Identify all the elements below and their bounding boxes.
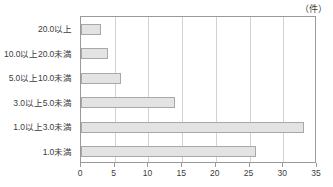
x-axis-tick-label: 0	[78, 168, 83, 178]
y-axis-label: 20.0以上	[38, 16, 72, 41]
unit-label: （件）	[300, 2, 327, 15]
x-axis-tick	[80, 163, 81, 167]
y-axis-label: 5.0以上10.0未満	[9, 65, 72, 90]
bar-row	[81, 91, 315, 116]
x-axis-tick-label: 25	[244, 168, 253, 178]
x-axis-tick	[215, 163, 216, 167]
y-axis-label: 1.0以上3.0未満	[13, 114, 72, 139]
x-axis-tick-label: 20	[210, 168, 219, 178]
bar[interactable]	[81, 97, 175, 108]
x-axis-tick	[282, 163, 283, 167]
x-axis-tick	[114, 163, 115, 167]
x-axis-ticks	[80, 163, 316, 167]
bar[interactable]	[81, 73, 121, 84]
x-axis-tick-label: 10	[143, 168, 152, 178]
x-axis-tick	[147, 163, 148, 167]
bar[interactable]	[81, 146, 256, 157]
y-axis-label: 3.0以上5.0未満	[13, 90, 72, 115]
x-axis-tick	[181, 163, 182, 167]
x-axis-tick-label: 35	[311, 168, 320, 178]
y-axis-label: 1.0未満	[43, 139, 72, 164]
bar[interactable]	[81, 48, 108, 59]
plot-area	[80, 16, 316, 163]
x-axis-tick	[316, 163, 317, 167]
x-axis-tick	[249, 163, 250, 167]
x-axis-tick-label: 15	[176, 168, 185, 178]
bar-row	[81, 140, 315, 165]
x-axis-tick-label: 30	[278, 168, 287, 178]
bar-row	[81, 17, 315, 42]
bar[interactable]	[81, 24, 101, 35]
bar-chart: （件） 20.0以上10.0以上20.0未満5.0以上10.0未満3.0以上5.…	[0, 0, 333, 187]
bar-row	[81, 66, 315, 91]
bars-layer	[81, 17, 315, 162]
y-axis-category-labels: 20.0以上10.0以上20.0未満5.0以上10.0未満3.0以上5.0未満1…	[0, 16, 76, 163]
bar-row	[81, 115, 315, 140]
x-axis-tick-label: 5	[111, 168, 116, 178]
y-axis-label: 10.0以上20.0未満	[4, 41, 72, 66]
bar[interactable]	[81, 122, 304, 133]
bar-row	[81, 42, 315, 67]
x-axis-tick-labels: 05101520253035	[80, 168, 316, 182]
